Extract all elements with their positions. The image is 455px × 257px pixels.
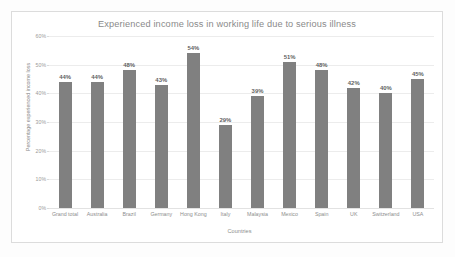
bar-slot: 39% [241,36,273,208]
y-axis-tick-label: 40% [36,90,46,96]
x-axis-tick-label: Malaysia [241,211,273,217]
bar-value-label: 48% [123,62,135,68]
bar[interactable]: 39% [251,96,264,208]
gridline [49,208,434,209]
y-axis-tick-label: 0% [39,205,47,211]
bar-slot: 48% [113,36,145,208]
bar[interactable]: 40% [379,93,392,208]
bar-value-label: 44% [91,74,103,80]
bar[interactable]: 29% [219,125,232,208]
bar-slot: 44% [49,36,81,208]
bar-value-label: 42% [348,80,360,86]
bar-value-label: 40% [380,85,392,91]
y-axis-tick-label: 20% [36,148,46,154]
bar-value-label: 48% [316,62,328,68]
y-axis-tick-label: 10% [36,176,46,182]
x-axis-tick-label: USA [402,211,434,217]
x-axis-tick-label: Brazil [113,211,145,217]
x-axis-tick-label: Italy [209,211,241,217]
bar[interactable]: 54% [187,53,200,208]
x-axis-tick-label: Germany [145,211,177,217]
bar-value-label: 54% [187,45,199,51]
bar-value-label: 39% [252,88,264,94]
bar-value-label: 43% [155,77,167,83]
bar[interactable]: 48% [315,70,328,208]
bar[interactable]: 48% [123,70,136,208]
y-axis-tick-mark [47,208,49,209]
bar[interactable]: 44% [91,82,104,208]
bar-value-label: 45% [412,71,424,77]
y-axis-tick-label: 60% [36,33,46,39]
bar-value-label: 44% [59,74,71,80]
y-axis-tick-label: 30% [36,119,46,125]
bar[interactable]: 45% [411,79,424,208]
bar-slot: 43% [145,36,177,208]
bar[interactable]: 51% [283,62,296,208]
x-axis-tick-label: UK [338,211,370,217]
bar-slot: 44% [81,36,113,208]
x-axis-title: Countries [42,228,437,234]
bar-slot: 29% [209,36,241,208]
bar-slot: 42% [338,36,370,208]
chart-container: Experienced income loss in working life … [11,11,443,243]
bar-value-label: 51% [284,54,296,60]
bar-slot: 51% [274,36,306,208]
x-axis-tick-label: Hong Kong [177,211,209,217]
y-axis-title: Percentage experienced income loss [25,52,31,162]
bar-slot: 48% [306,36,338,208]
bar-series: 44%44%48%43%54%29%39%51%48%42%40%45% [49,36,434,208]
bar[interactable]: 44% [59,82,72,208]
plot-area: 0%10%20%30%40%50%60% 44%44%48%43%54%29%3… [49,36,434,208]
bar[interactable]: 43% [155,85,168,208]
bar-slot: 40% [370,36,402,208]
x-axis-tick-label: Spain [306,211,338,217]
bar-value-label: 29% [220,117,232,123]
scanned-page: Experienced income loss in working life … [0,0,455,257]
chart-title: Experienced income loss in working life … [12,19,442,29]
x-axis-tick-label: Australia [81,211,113,217]
x-axis-tick-label: Mexico [274,211,306,217]
x-axis-tick-label: Switzerland [370,211,402,217]
bar-slot: 45% [402,36,434,208]
bar[interactable]: 42% [347,88,360,208]
x-axis-tick-label: Grand total [49,211,81,217]
bar-slot: 54% [177,36,209,208]
y-axis-tick-label: 50% [36,62,46,68]
x-axis-ticks: Grand totalAustraliaBrazilGermanyHong Ko… [49,211,434,217]
